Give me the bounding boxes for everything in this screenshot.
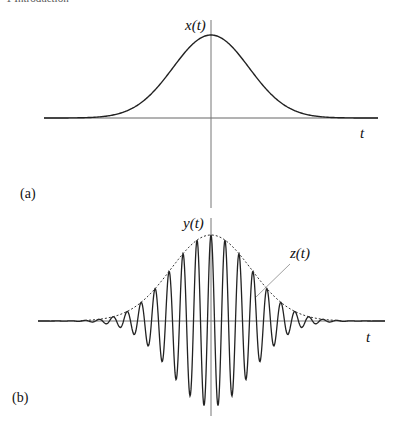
figure: x(t) t (a) y(t) z(t) t (b) — [0, 0, 403, 429]
panel-a: x(t) t (a) — [20, 17, 378, 208]
panel-label-a: (a) — [20, 186, 36, 202]
panel-label-b: (b) — [12, 390, 29, 406]
envelope-label-b: z(t) — [289, 245, 310, 262]
x-label-a: t — [360, 125, 365, 141]
x-label-b: t — [366, 329, 371, 345]
y-label-a: x(t) — [184, 17, 206, 34]
envelope-leader-line — [256, 264, 290, 297]
panel-b: y(t) z(t) t (b) — [12, 215, 385, 416]
y-label-b: y(t) — [181, 215, 204, 232]
